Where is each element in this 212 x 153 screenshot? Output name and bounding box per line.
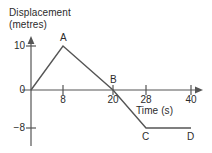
x-tick-label-40: 40 bbox=[182, 94, 200, 105]
y-axis-title-line2: (metres) bbox=[9, 19, 47, 31]
y-tick-label-0: 0 bbox=[9, 84, 25, 95]
point-label-d: D bbox=[187, 131, 194, 142]
y-axis-title-line1: Displacement bbox=[9, 7, 71, 19]
x-tick-label-28: 28 bbox=[137, 94, 155, 105]
point-label-a: A bbox=[60, 32, 67, 43]
x-tick-label-8: 8 bbox=[55, 94, 71, 105]
displacement-time-graph: Displacement (metres) Time (s) 10 0 −8 8… bbox=[0, 0, 212, 153]
y-axis bbox=[28, 36, 35, 146]
point-label-c: C bbox=[142, 131, 149, 142]
y-tick-label-neg8: −8 bbox=[5, 122, 25, 133]
y-tick-label-10: 10 bbox=[9, 40, 25, 51]
point-label-b: B bbox=[110, 74, 117, 85]
x-tick-label-20: 20 bbox=[104, 94, 122, 105]
x-axis-title: Time (s) bbox=[136, 105, 173, 117]
